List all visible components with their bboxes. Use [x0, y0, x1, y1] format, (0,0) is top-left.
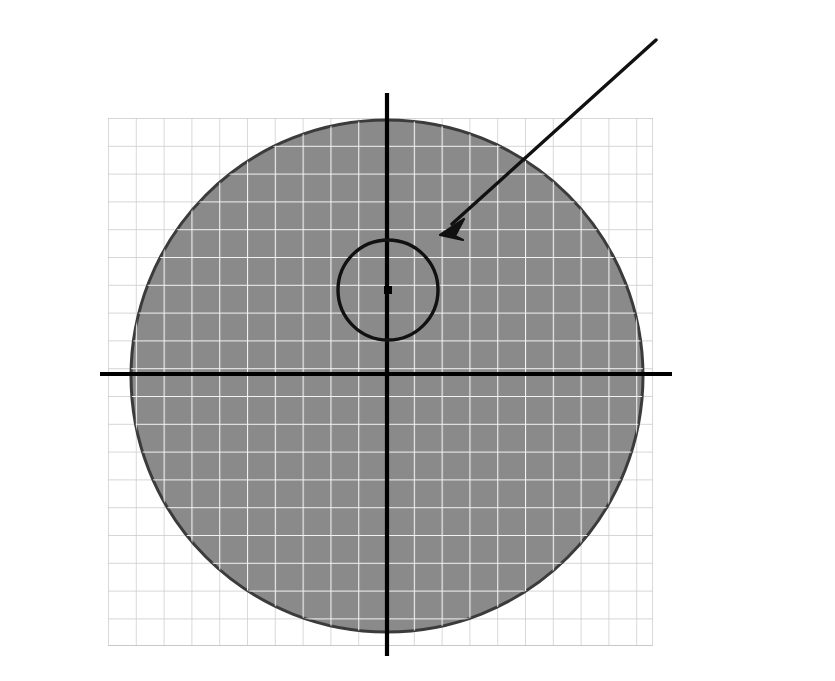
- center-dot: [384, 286, 392, 294]
- figure-container: Figure 26 Turned Red: [0, 0, 835, 681]
- diagram-canvas: [0, 0, 835, 681]
